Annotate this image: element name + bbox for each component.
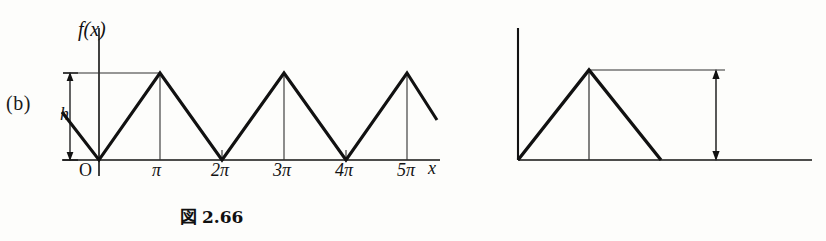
panel-tag-left: (b) [6,92,31,115]
y-axis-label-fx: f(x) [78,18,106,41]
amplitude-label-h: h [60,104,69,125]
x-tick-label-4pi: 4π [335,160,353,181]
caption-symbol-left: 図 [180,207,197,227]
figure-2-66: (b) f(x) h O π 2π 3π 4π 5π x 図2.66 [0,0,450,241]
figure-sheet: (b) f(x) h O π 2π 3π 4π 5π x 図2.66 [0,0,826,241]
x-tick-label-pi: π [152,160,161,181]
figure-caption-left: 図2.66 [180,203,243,228]
x-axis-label-x: x [428,158,436,179]
x-tick-label-5pi: 5π [397,160,415,181]
figure-2-67: (b) F(t) F0 O τ/2 τ t 図2.67 [450,0,826,241]
x-tick-label-2pi: 2π [211,160,229,181]
waveform-triangular [62,73,437,160]
caption-number-left: 2.66 [202,207,243,227]
figure-2-67-plot [450,0,826,241]
x-tick-label-3pi: 3π [273,160,291,181]
x-tick-label-origin: O [79,160,92,181]
